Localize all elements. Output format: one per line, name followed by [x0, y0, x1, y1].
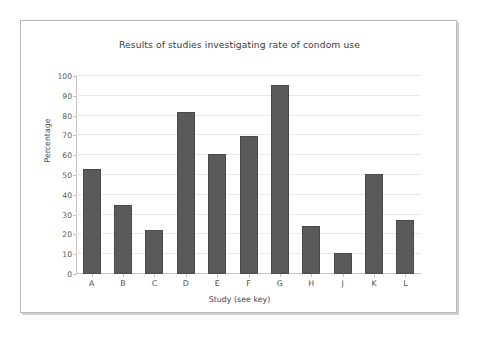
x-tick-mark-E: [217, 274, 218, 277]
x-tick-label-B: B: [120, 279, 125, 288]
x-tick-mark-H: [311, 274, 312, 277]
x-tick-mark-F: [249, 274, 250, 277]
bar-D: [177, 112, 195, 274]
bar-B: [114, 205, 132, 274]
y-tick-label-40: 40: [46, 190, 72, 199]
y-tick-label-70: 70: [46, 131, 72, 140]
chart-frame: Results of studies investigating rate of…: [20, 20, 457, 313]
x-tick-mark-A: [92, 274, 93, 277]
bar-G: [271, 85, 289, 274]
x-tick-label-J: J: [341, 279, 343, 288]
x-tick-label-H: H: [308, 279, 314, 288]
bar-J: [334, 253, 352, 274]
x-tick-label-D: D: [183, 279, 189, 288]
y-tick-label-0: 0: [46, 270, 72, 279]
bars-layer: [76, 76, 421, 274]
x-tick-label-F: F: [246, 279, 251, 288]
x-tick-label-G: G: [277, 279, 283, 288]
chart-title: Results of studies investigating rate of…: [21, 39, 458, 50]
x-tick-mark-L: [405, 274, 406, 277]
x-tick-label-K: K: [371, 279, 376, 288]
bar-F: [240, 136, 258, 274]
x-tick-label-E: E: [215, 279, 220, 288]
y-tick-label-60: 60: [46, 151, 72, 160]
x-tick-mark-D: [186, 274, 187, 277]
x-tick-mark-J: [343, 274, 344, 277]
x-tick-mark-G: [280, 274, 281, 277]
x-axis-tick-labels: ABCDEFGHJKL: [76, 277, 421, 293]
y-tick-label-30: 30: [46, 210, 72, 219]
y-tick-label-20: 20: [46, 230, 72, 239]
figure-root: Results of studies investigating rate of…: [0, 0, 479, 339]
y-tick-label-90: 90: [46, 91, 72, 100]
x-tick-label-C: C: [152, 279, 157, 288]
y-tick-label-80: 80: [46, 111, 72, 120]
bar-E: [208, 154, 226, 274]
bar-A: [83, 169, 101, 274]
y-tick-label-10: 10: [46, 250, 72, 259]
bar-L: [396, 220, 414, 274]
x-tick-mark-C: [154, 274, 155, 277]
x-tick-mark-K: [374, 274, 375, 277]
x-tick-mark-B: [123, 274, 124, 277]
bar-H: [302, 226, 320, 275]
y-tick-label-50: 50: [46, 171, 72, 180]
y-tick-label-100: 100: [46, 72, 72, 81]
x-tick-label-L: L: [403, 279, 407, 288]
y-axis-tick-labels: 0102030405060708090100: [44, 76, 72, 274]
x-tick-label-A: A: [89, 279, 94, 288]
plot-area: [76, 76, 421, 274]
x-axis-title: Study (see key): [21, 295, 458, 304]
bar-C: [145, 230, 163, 274]
bar-K: [365, 174, 383, 274]
